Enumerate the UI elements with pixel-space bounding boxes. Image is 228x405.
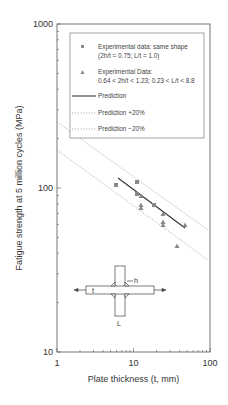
prediction-minus-20-line xyxy=(57,150,208,260)
same-shape-data-points xyxy=(114,180,156,207)
y-tick-100: 100 xyxy=(38,183,53,193)
legend-label-plus-20: Prediction +20% xyxy=(98,109,145,116)
diagram-label-h: h xyxy=(134,277,138,284)
y-axis-ticks xyxy=(57,24,61,352)
legend-label-same-shape-params: (2h/t = 0.75; L/t = 1.0) xyxy=(98,52,159,60)
varied-shape-data-points xyxy=(139,194,188,249)
x-tick-10: 10 xyxy=(128,358,138,368)
y-tick-1000: 1000 xyxy=(33,19,53,29)
diagram-label-t: t xyxy=(92,287,94,294)
legend-label-prediction: Prediction xyxy=(98,92,127,99)
legend-square-icon xyxy=(81,45,84,48)
legend-label-minus-20: Prediction −20% xyxy=(98,125,145,132)
x-tick-100: 100 xyxy=(202,358,217,368)
prediction-line xyxy=(118,178,185,228)
y-tick-10: 10 xyxy=(43,347,53,357)
fatigue-strength-chart: 1000 100 10 1 10 100 Plate thickness (t,… xyxy=(0,0,228,405)
legend-label-varied-params: 0.64 < 2h/t < 1.23; 0.23 < L/t < 8.8 xyxy=(98,77,195,84)
specimen-diagram xyxy=(74,266,166,316)
legend-label-same-shape: Experimental data: same shape xyxy=(98,43,188,51)
x-axis-ticks xyxy=(57,348,210,352)
diagram-label-L: L xyxy=(117,320,121,327)
y-axis-title: Fatigue strength at 5 million cycles (MP… xyxy=(14,105,24,270)
x-axis-title: Plate thickness (t, mm) xyxy=(88,374,180,384)
legend-label-varied: Experimental Data: xyxy=(98,68,153,76)
legend: Experimental data: same shape (2h/t = 0.… xyxy=(70,33,204,138)
x-tick-1: 1 xyxy=(54,358,59,368)
